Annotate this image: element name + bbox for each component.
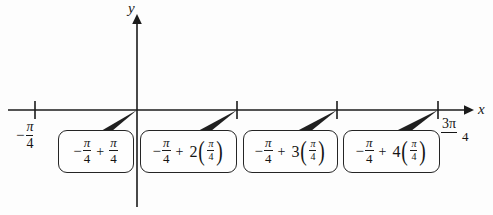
callout-1-plus: + bbox=[96, 144, 104, 160]
callout-2-paren-open: ( bbox=[199, 141, 205, 161]
callout-1-second-fraction: π 4 bbox=[109, 136, 118, 165]
callout-2-first-fraction: π 4 bbox=[162, 136, 171, 165]
callout-4-paren-close: ) bbox=[420, 141, 426, 161]
callout-3-coefficient: 3 bbox=[291, 143, 299, 161]
callout-2-minus: − bbox=[153, 143, 161, 160]
tick-label-minus-sign: − bbox=[16, 127, 24, 144]
callout-3-expression: − π 4 + 3 ( π 4 ) bbox=[255, 137, 327, 166]
tick-label-fraction: π 4 bbox=[26, 120, 33, 151]
x-axis bbox=[8, 105, 474, 115]
callout-3-first-numerator: π bbox=[264, 136, 273, 150]
callout-4-parenthesized-fraction: ( π 4 ) bbox=[400, 140, 427, 163]
tick-label-3pi-over-4: 3π 4 bbox=[441, 114, 457, 133]
callout-1-minus: − bbox=[73, 143, 81, 160]
leader-line-3 bbox=[297, 110, 337, 131]
callout-2-second-numerator: π bbox=[207, 139, 214, 150]
callout-4-first-numerator: π bbox=[365, 136, 374, 150]
callout-3-paren-close: ) bbox=[319, 141, 325, 161]
callout-2-paren-close: ) bbox=[217, 141, 223, 161]
y-axis-label: y bbox=[128, 0, 135, 17]
axes-and-leader-lines bbox=[0, 0, 493, 215]
leader-line-1 bbox=[101, 110, 137, 131]
callout-4-coefficient: 4 bbox=[392, 143, 400, 161]
callout-2-second-denominator: 4 bbox=[207, 150, 214, 162]
callout-4-plus: + bbox=[379, 144, 387, 160]
callout-1-first-denominator: 4 bbox=[83, 150, 92, 165]
callout-2-plus: + bbox=[176, 144, 184, 160]
callout-3-second-fraction: π 4 bbox=[309, 139, 316, 162]
callout-3-paren-open: ( bbox=[301, 141, 307, 161]
callout-box-2[interactable]: − π 4 + 2 ( π 4 ) bbox=[140, 130, 237, 173]
callout-3-first-fraction: π 4 bbox=[264, 136, 273, 165]
leader-lines bbox=[101, 110, 438, 131]
callout-box-4[interactable]: − π 4 + 4 ( π 4 ) bbox=[343, 130, 440, 173]
figure-canvas: y x − π 4 3π 4 − π 4 + π 4 − bbox=[0, 0, 493, 215]
callout-box-1[interactable]: − π 4 + π 4 bbox=[58, 130, 134, 173]
callout-3-minus: − bbox=[255, 143, 263, 160]
callout-4-first-fraction: π 4 bbox=[365, 136, 374, 165]
callout-1-first-fraction: π 4 bbox=[83, 136, 92, 165]
tick-label-denominator: 4 bbox=[26, 135, 33, 151]
callout-4-second-denominator: 4 bbox=[410, 150, 417, 162]
callout-2-first-numerator: π bbox=[162, 136, 171, 150]
callout-4-expression: − π 4 + 4 ( π 4 ) bbox=[356, 137, 428, 166]
callout-3-second-denominator: 4 bbox=[309, 150, 316, 162]
tick-label-right-denominator: 4 bbox=[462, 129, 469, 145]
callout-1-second-denominator: 4 bbox=[109, 150, 118, 165]
callout-2-coefficient: 2 bbox=[189, 143, 197, 161]
callout-4-minus: − bbox=[356, 143, 364, 160]
callout-2-first-denominator: 4 bbox=[162, 150, 171, 165]
tick-label-neg-pi-over-4: − π 4 bbox=[16, 120, 33, 151]
tick-label-numerator: π bbox=[26, 120, 33, 135]
leader-line-4 bbox=[396, 110, 438, 131]
callout-4-second-fraction: π 4 bbox=[410, 139, 417, 162]
callout-4-second-numerator: π bbox=[410, 139, 417, 150]
callout-4-paren-open: ( bbox=[402, 141, 408, 161]
callout-1-first-numerator: π bbox=[83, 136, 92, 150]
callout-3-first-denominator: 4 bbox=[264, 150, 273, 165]
callout-2-second-fraction: π 4 bbox=[207, 139, 214, 162]
callout-2-expression: − π 4 + 2 ( π 4 ) bbox=[153, 137, 225, 166]
callout-box-3[interactable]: − π 4 + 3 ( π 4 ) bbox=[243, 130, 338, 173]
x-axis-arrowhead bbox=[464, 105, 474, 115]
tick-label-right-numerator: 3π bbox=[441, 116, 457, 133]
callout-1-second-numerator: π bbox=[109, 136, 118, 150]
callout-2-parenthesized-fraction: ( π 4 ) bbox=[197, 140, 224, 163]
callout-3-second-numerator: π bbox=[309, 139, 316, 150]
callout-3-parenthesized-fraction: ( π 4 ) bbox=[299, 140, 326, 163]
x-axis-label: x bbox=[478, 101, 485, 118]
callout-4-first-denominator: 4 bbox=[365, 150, 374, 165]
callout-3-plus: + bbox=[278, 144, 286, 160]
callout-1-expression: − π 4 + π 4 bbox=[73, 137, 118, 166]
leader-line-2 bbox=[198, 110, 237, 131]
